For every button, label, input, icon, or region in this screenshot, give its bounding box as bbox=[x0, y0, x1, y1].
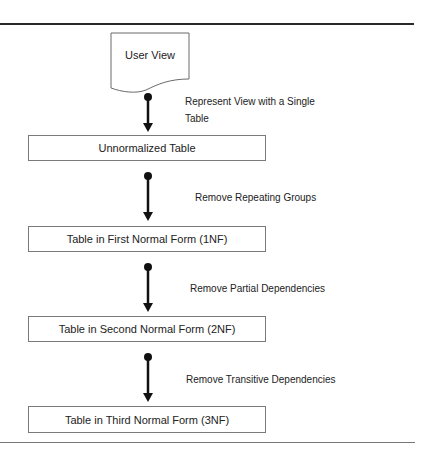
connector-arrow-4 bbox=[140, 352, 156, 404]
transition-label-1-line2: Table bbox=[185, 110, 315, 127]
transition-label-3: Remove Partial Dependencies bbox=[190, 280, 325, 297]
arrow-down-icon bbox=[140, 92, 156, 134]
stage-unnormalized-table: Unnormalized Table bbox=[28, 135, 266, 161]
stage-label: Table in Third Normal Form (3NF) bbox=[65, 414, 229, 426]
transition-label-1-line1: Represent View with a Single bbox=[185, 93, 315, 110]
stage-second-normal-form: Table in Second Normal Form (2NF) bbox=[28, 316, 266, 342]
arrow-down-icon bbox=[140, 352, 156, 404]
transition-label-2: Remove Repeating Groups bbox=[195, 189, 316, 206]
connector-arrow-3 bbox=[140, 262, 156, 314]
document-shape-icon bbox=[110, 32, 190, 94]
stage-third-normal-form: Table in Third Normal Form (3NF) bbox=[28, 406, 266, 433]
bottom-rule bbox=[0, 442, 415, 443]
stage-label: Unnormalized Table bbox=[98, 142, 195, 154]
transition-label-2-line1: Remove Repeating Groups bbox=[195, 189, 316, 206]
stage-label: Table in First Normal Form (1NF) bbox=[67, 233, 228, 245]
transition-label-4-line1: Remove Transitive Dependencies bbox=[186, 371, 336, 388]
user-view-label: User View bbox=[110, 49, 190, 61]
user-view-document: User View bbox=[110, 32, 190, 94]
connector-arrow-2 bbox=[140, 171, 156, 223]
stage-label: Table in Second Normal Form (2NF) bbox=[59, 323, 236, 335]
stage-first-normal-form: Table in First Normal Form (1NF) bbox=[28, 226, 266, 252]
transition-label-1: Represent View with a Single Table bbox=[185, 93, 315, 127]
connector-arrow-1 bbox=[140, 92, 156, 134]
transition-label-3-line1: Remove Partial Dependencies bbox=[190, 280, 325, 297]
top-rule bbox=[0, 23, 414, 25]
arrow-down-icon bbox=[140, 171, 156, 223]
arrow-down-icon bbox=[140, 262, 156, 314]
transition-label-4: Remove Transitive Dependencies bbox=[186, 371, 336, 388]
